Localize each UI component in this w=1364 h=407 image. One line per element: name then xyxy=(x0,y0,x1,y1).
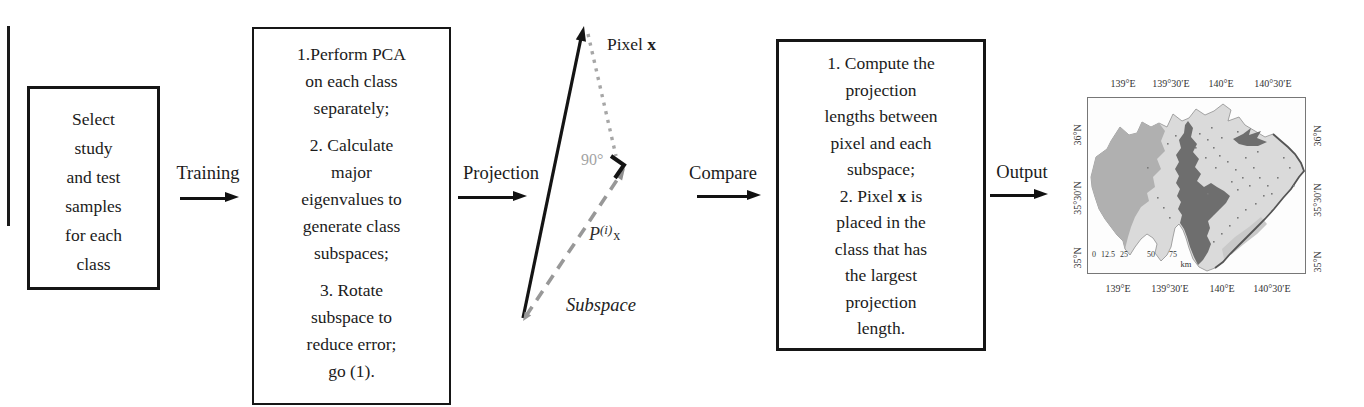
text-line: eigenvalues to xyxy=(254,186,449,213)
map-lat-label-right: 35°30′N xyxy=(1312,183,1323,216)
scale-unit-label: km xyxy=(1181,259,1192,269)
text-line: the largest xyxy=(779,262,983,289)
text-span: 2. Pixel xyxy=(840,186,898,206)
p-symbol: P xyxy=(589,224,600,244)
compare-arrow xyxy=(697,195,747,198)
projection-length-label: P(i)x xyxy=(589,221,620,245)
text-line: 1. Compute the xyxy=(779,50,983,77)
pixel-x-label-text: Pixel xyxy=(607,34,647,54)
output-label: Output xyxy=(988,162,1056,183)
p-subscript-x: x xyxy=(613,228,620,243)
map-lat-label-left: 36°N xyxy=(1072,124,1083,145)
p-superscript: (i) xyxy=(600,222,612,237)
scale-tick-label: 75 xyxy=(1169,250,1177,259)
pixel-vector-arrowhead xyxy=(576,26,586,42)
map-lon-label-top: 139°30′E xyxy=(1152,78,1189,89)
text-line: reduce error; xyxy=(254,331,449,358)
text-line: class that has xyxy=(779,236,983,263)
text-line: 2. Calculate xyxy=(254,132,449,159)
compare-step-2: 2. Pixel x is placed in the class that h… xyxy=(779,183,983,342)
text-line: placed in the xyxy=(779,209,983,236)
text-line: class xyxy=(30,250,157,279)
pca-step-1: 1.Perform PCA on each class separately; xyxy=(254,41,449,122)
text-line: 3. Rotate xyxy=(254,277,449,304)
text-span: is xyxy=(906,186,922,206)
compare-label: Compare xyxy=(684,163,762,184)
text-line: Select xyxy=(30,105,157,134)
text-line: go (1). xyxy=(254,358,449,385)
flow-diagram-canvas: Select study and test samples for each c… xyxy=(0,0,1364,407)
subspace-label: Subspace xyxy=(566,295,636,316)
text-line: projection xyxy=(779,77,983,104)
text-line: subspace to xyxy=(254,304,449,331)
map-lon-label-bottom: 140°E xyxy=(1209,283,1234,294)
output-arrow xyxy=(990,194,1034,197)
text-line: pixel and each xyxy=(779,130,983,157)
scan-artifact-line xyxy=(7,26,10,226)
pca-training-box: 1.Perform PCA on each class separately; … xyxy=(252,27,451,405)
map-lon-label-bottom: 139°30′E xyxy=(1151,283,1188,294)
map-lon-label-bottom: 139°E xyxy=(1105,283,1130,294)
text-line: projection xyxy=(779,289,983,316)
map-lon-label-top: 139°E xyxy=(1110,78,1135,89)
pixel-x-label-bold: x xyxy=(647,34,656,54)
training-label: Training xyxy=(168,163,248,184)
angle-90-label: 90° xyxy=(581,151,603,169)
text-line: 1.Perform PCA xyxy=(254,41,449,68)
text-line: for each xyxy=(30,221,157,250)
text-line: 2. Pixel x is xyxy=(779,183,983,210)
map-lat-label-left: 35°N xyxy=(1072,247,1083,268)
text-line: samples xyxy=(30,192,157,221)
map-lon-label-top: 140°30′E xyxy=(1254,78,1291,89)
text-line: and test xyxy=(30,163,157,192)
scale-tick-label: 25 xyxy=(1120,250,1128,259)
vector-diagram xyxy=(450,10,680,330)
pixel-x-label: Pixel x xyxy=(607,34,656,55)
bold-x: x xyxy=(898,186,907,206)
text-line: on each class xyxy=(254,68,449,95)
text-line: subspaces; xyxy=(254,240,449,267)
map-lat-label-left: 35°30′N xyxy=(1072,181,1083,214)
map-lat-label-right: 35°N xyxy=(1312,251,1323,272)
scale-tick-label: 50 xyxy=(1147,250,1155,259)
scale-tick-label: 0 xyxy=(1092,250,1096,259)
map-lon-label-bottom: 140°30′E xyxy=(1253,283,1290,294)
scale-tick-label: 12.5 xyxy=(1101,250,1115,259)
text-line: lengths between xyxy=(779,103,983,130)
select-samples-box: Select study and test samples for each c… xyxy=(27,86,160,290)
pca-step-2: 2. Calculate major eigenvalues to genera… xyxy=(254,132,449,267)
text-line: separately; xyxy=(254,95,449,122)
text-line: generate class xyxy=(254,213,449,240)
map-lon-label-top: 140°E xyxy=(1208,78,1233,89)
map-lat-label-right: 36°N xyxy=(1312,125,1323,146)
text-line: subspace; xyxy=(779,156,983,183)
pca-step-3: 3. Rotate subspace to reduce error; go (… xyxy=(254,277,449,385)
classification-map: 0 12.5 25 50 75 km xyxy=(1087,97,1306,274)
text-line: major xyxy=(254,159,449,186)
text-line: study xyxy=(30,134,157,163)
training-arrow xyxy=(180,197,225,200)
compare-classify-box: 1. Compute the projection lengths betwee… xyxy=(776,39,986,351)
compare-step-1: 1. Compute the projection lengths betwee… xyxy=(779,50,983,183)
text-line: length. xyxy=(779,315,983,342)
